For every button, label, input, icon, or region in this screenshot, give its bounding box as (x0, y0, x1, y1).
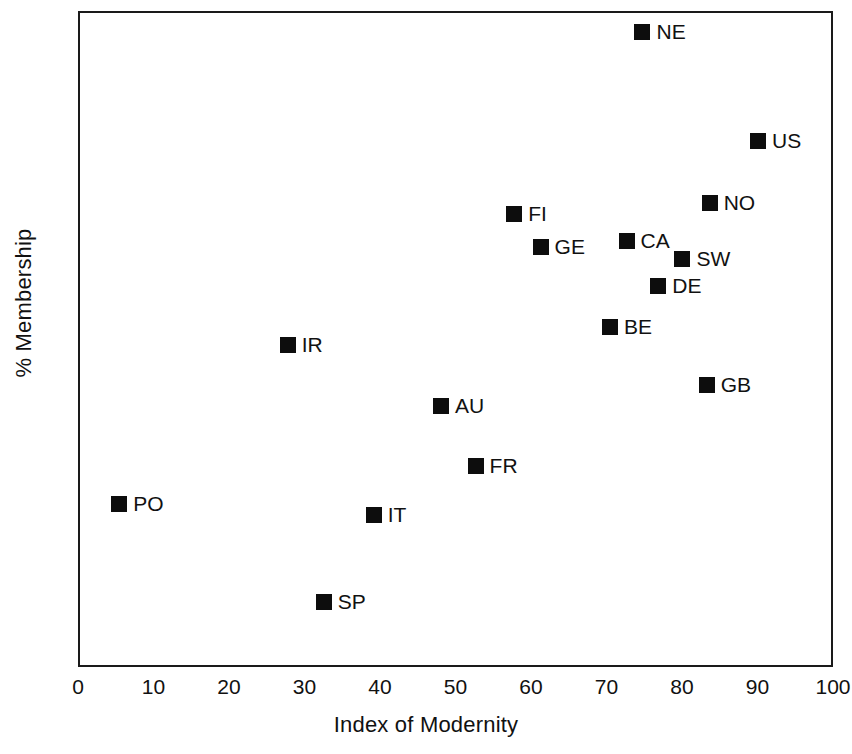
data-point-label: FR (490, 454, 518, 478)
square-marker-icon (433, 398, 449, 414)
square-marker-icon (316, 594, 332, 610)
data-point-label: DE (672, 274, 701, 298)
data-point-label: NO (724, 191, 756, 215)
square-marker-icon (634, 24, 650, 40)
data-point-label: IR (302, 333, 323, 357)
x-axis-tick-label: 30 (275, 676, 335, 697)
data-point-label: PO (133, 492, 163, 516)
x-axis-tick-label: 100 (803, 676, 852, 697)
square-marker-icon (506, 206, 522, 222)
x-axis-tick-label: 50 (426, 676, 486, 697)
data-point-label: AU (455, 394, 484, 418)
x-axis-tick-label: 90 (728, 676, 788, 697)
data-point-label: FI (528, 202, 547, 226)
square-marker-icon (699, 377, 715, 393)
x-axis-tick-label: 80 (652, 676, 712, 697)
square-marker-icon (702, 195, 718, 211)
x-axis-tick-label: 0 (48, 676, 108, 697)
data-point-label: US (772, 129, 801, 153)
data-point-label: NE (656, 20, 685, 44)
plot-area: NEUSNOFICAGESWDEBEIRGBAUFRPOITSP (78, 11, 833, 667)
scatter-plot-figure: % Membership Index of Modernity 10203040… (0, 0, 852, 754)
square-marker-icon (619, 233, 635, 249)
square-marker-icon (674, 251, 690, 267)
x-axis-tick-label: 70 (577, 676, 637, 697)
square-marker-icon (280, 337, 296, 353)
data-point-label: IT (388, 503, 407, 527)
data-point-label: SW (696, 247, 730, 271)
data-point-label: GB (721, 373, 751, 397)
square-marker-icon (533, 239, 549, 255)
square-marker-icon (602, 319, 618, 335)
data-point-label: SP (338, 590, 366, 614)
data-point-label: GE (555, 235, 585, 259)
x-axis-label: Index of Modernity (0, 712, 852, 738)
square-marker-icon (111, 496, 127, 512)
x-axis-tick-label: 40 (350, 676, 410, 697)
square-marker-icon (366, 507, 382, 523)
x-axis-tick-label: 10 (124, 676, 184, 697)
x-axis-tick-label: 20 (199, 676, 259, 697)
data-point-label: CA (641, 229, 670, 253)
y-axis-label: % Membership (11, 183, 37, 423)
data-point-label: BE (624, 315, 652, 339)
square-marker-icon (650, 278, 666, 294)
square-marker-icon (750, 133, 766, 149)
square-marker-icon (468, 458, 484, 474)
x-axis-tick-label: 60 (501, 676, 561, 697)
